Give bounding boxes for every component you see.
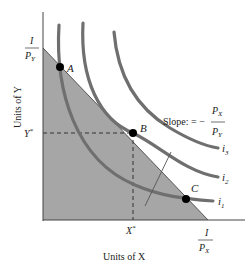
- slope-annotation: Slope: = − PX PY: [163, 105, 225, 139]
- svg-text:PX: PX: [198, 242, 210, 255]
- svg-text:I: I: [204, 227, 209, 238]
- curve-label-i3: i3: [222, 142, 229, 157]
- point-c-label: C: [191, 182, 199, 194]
- point-b-label: B: [140, 122, 147, 134]
- x-intercept-label: I PX: [198, 227, 213, 255]
- svg-text:I: I: [29, 35, 34, 46]
- curve-label-i2: i2: [222, 171, 229, 186]
- x-axis-label: Units of X: [103, 251, 146, 262]
- svg-text:PX: PX: [211, 105, 223, 118]
- svg-text:PY: PY: [24, 50, 36, 63]
- x-star-label: X*: [125, 224, 136, 236]
- y-star-label: Y*: [24, 127, 34, 139]
- curve-label-i1: i1: [218, 195, 225, 210]
- point-a-label: A: [66, 62, 74, 74]
- indifference-curve-diagram: A B C i1 i2 i3 Slope: = − PX PY I PY I P…: [0, 0, 250, 270]
- svg-text:PY: PY: [211, 126, 223, 139]
- point-c: [182, 195, 190, 203]
- y-axis-label: Units of Y: [12, 86, 23, 128]
- svg-text:Slope: = −: Slope: = −: [163, 116, 205, 127]
- y-intercept-label: I PY: [24, 35, 39, 63]
- point-a: [56, 63, 64, 71]
- point-b: [129, 129, 137, 137]
